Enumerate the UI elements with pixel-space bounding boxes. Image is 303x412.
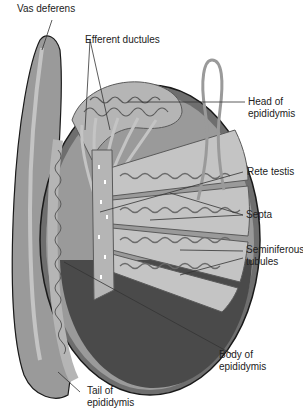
label-rete-testis: Rete testis (247, 166, 294, 178)
label-efferent-ductules: Efferent ductules (85, 34, 160, 46)
label-septa: Septa (246, 209, 272, 221)
label-seminiferous-tubules: Seminiferous tubules (246, 244, 303, 268)
label-tail-line1: Tail of (87, 385, 134, 397)
label-head-line2: epididymis (248, 108, 295, 120)
rete-testis (92, 150, 114, 300)
label-seminiferous-line1: Seminiferous (246, 244, 303, 256)
label-tail-of-epididymis: Tail of epididymis (87, 385, 134, 409)
label-head-of-epididymis: Head of epididymis (248, 96, 295, 120)
label-head-line1: Head of (248, 96, 295, 108)
label-body-line1: Body of (219, 349, 266, 361)
label-vas-deferens: Vas deferens (17, 3, 75, 15)
label-body-of-epididymis: Body of epididymis (219, 349, 266, 373)
label-seminiferous-line2: tubules (246, 256, 303, 268)
label-tail-line2: epididymis (87, 397, 134, 409)
label-body-line2: epididymis (219, 361, 266, 373)
